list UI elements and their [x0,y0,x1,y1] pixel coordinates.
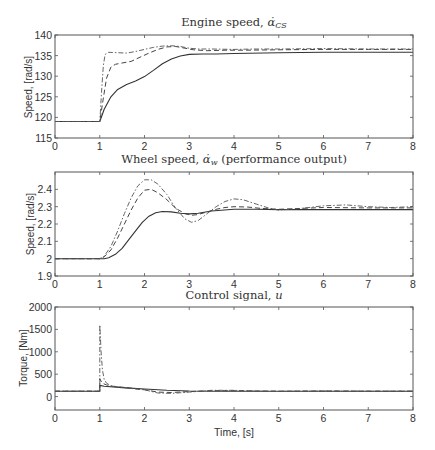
chart-title: Engine speed, α̇CS [181,15,287,30]
x-tick-label: 3 [186,412,192,424]
x-tick-label: 6 [321,278,327,290]
y-tick-label: 135 [34,50,52,62]
y-tick-label: 1500 [29,323,53,335]
y-tick-label: 130 [34,70,52,82]
x-tick-label: 5 [276,140,282,152]
x-tick-label: 1 [97,412,103,424]
plot-lines [55,180,413,259]
x-tick-label: 1 [97,278,103,290]
series-line-dashed [55,379,413,393]
y-tick-label: 500 [34,368,52,380]
x-tick-label: 4 [231,140,237,152]
x-tick-label: 6 [321,140,327,152]
y-tick-label: 120 [34,111,52,123]
y-tick-label: 2 [46,253,52,265]
series-line-solid [55,52,413,121]
panel-control-signal: Control signal, u Torque, [Nm] 012345678… [18,288,416,438]
x-tick-label: 7 [365,412,371,424]
x-tick-label: 0 [52,140,58,152]
chart-title: Control signal, u [185,288,282,302]
axis-ticks: 012345678115120125130135140 [34,29,416,152]
x-tick-label: 7 [365,278,371,290]
x-tick-label: 1 [97,140,103,152]
y-tick-label: 2.1 [37,235,52,247]
x-tick-label: 0 [52,412,58,424]
y-tick-label: 2000 [29,301,53,313]
series-line-solid [55,209,413,258]
x-tick-label: 2 [142,140,148,152]
y-tick-label: 1.9 [37,270,52,282]
x-tick-label: 8 [410,412,416,424]
x-tick-label: 0 [52,278,58,290]
y-tick-label: 115 [35,132,52,144]
axis-ticks: 0123456781.922.12.22.32.4 [37,172,416,290]
x-tick-label: 3 [186,140,192,152]
panel-engine-speed: Engine speed, α̇CS Speed, [rad/s] 012345… [23,15,416,152]
x-tick-label: 8 [410,140,416,152]
x-tick-label: 5 [276,412,282,424]
y-tick-label: 2.3 [37,201,52,213]
axes-frame [55,307,413,410]
plot-lines [55,46,413,122]
x-tick-label: 2 [142,412,148,424]
series-line-dash-dot [55,46,413,122]
x-axis-label: Time, [s] [214,426,254,438]
plot-lines [55,325,413,394]
y-axis-label: Torque, [Nm] [18,329,29,386]
x-tick-label: 6 [321,412,327,424]
y-tick-label: 140 [34,29,52,41]
axis-ticks: 0123456780500100015002000 [29,301,416,424]
y-tick-label: 125 [34,91,52,103]
series-line-dashed [55,189,413,258]
x-tick-label: 2 [142,278,148,290]
y-tick-label: 2.4 [37,183,52,195]
series-line-dash-dot [55,325,413,394]
chart-title: Wheel speed, α̇w (performance output) [121,152,347,167]
axes-frame [55,172,413,276]
x-tick-label: 8 [410,278,416,290]
panel-wheel-speed: Wheel speed, α̇w (performance output) Sp… [25,152,416,290]
y-axis-label: Speed, [rad/s] [25,193,36,255]
x-tick-label: 4 [231,412,237,424]
figure: Engine speed, α̇CS Speed, [rad/s] 012345… [0,0,435,450]
x-tick-label: 7 [365,140,371,152]
y-tick-label: 2.2 [37,218,52,230]
series-line-dash-dot [55,180,413,259]
series-line-dashed [55,47,413,122]
y-tick-label: 1000 [29,346,53,358]
y-axis-label: Speed, [rad/s] [23,56,34,118]
y-tick-label: 0 [46,391,52,403]
